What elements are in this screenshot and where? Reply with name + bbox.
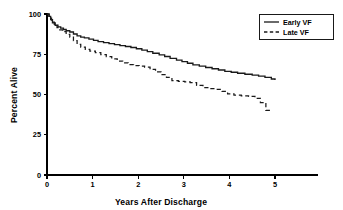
x-axis-ticks: 012345 xyxy=(45,175,277,189)
x-tick-label: 3 xyxy=(182,180,186,189)
x-tick-label: 2 xyxy=(136,180,140,189)
y-axis-title: Percent Alive xyxy=(9,67,19,123)
x-axis-title: Years After Discharge xyxy=(115,197,207,207)
y-tick-label: 100 xyxy=(29,10,41,19)
data-series xyxy=(47,14,275,111)
x-tick-label: 5 xyxy=(273,180,277,189)
y-tick-label: 0 xyxy=(37,171,41,180)
legend-label-early-vf: Early VF xyxy=(283,18,312,27)
y-tick-label: 25 xyxy=(33,130,41,139)
series-line-late-vf xyxy=(47,14,272,111)
x-tick-label: 0 xyxy=(45,180,49,189)
x-tick-label: 4 xyxy=(227,180,232,189)
y-tick-label: 50 xyxy=(33,90,41,99)
chart-canvas: 0255075100 012345 Percent Alive Years Af… xyxy=(0,0,343,210)
x-tick-label: 1 xyxy=(91,180,95,189)
y-tick-label: 75 xyxy=(33,50,41,59)
legend-label-late-vf: Late VF xyxy=(283,28,310,37)
survival-curve-figure: 0255075100 012345 Percent Alive Years Af… xyxy=(0,0,343,210)
y-axis-ticks: 0255075100 xyxy=(29,10,47,180)
legend: Early VF Late VF xyxy=(259,14,333,39)
